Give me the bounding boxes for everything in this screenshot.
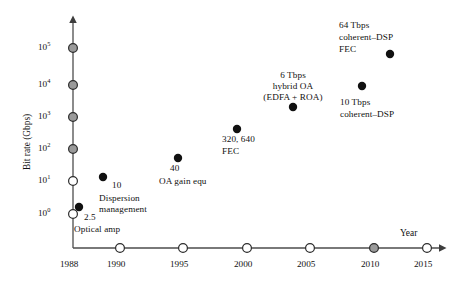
x-tick-marker-2000 [243, 244, 252, 253]
x-axis-title: Year [400, 228, 417, 238]
annotation-10tbps-line1: 10 Tbps [340, 97, 370, 108]
annotation-oa-gain-equ: OA gain equ [159, 176, 207, 187]
x-tick-label-1990: 1990 [107, 259, 125, 269]
x-tick-marker-2005 [306, 244, 315, 253]
y-tick-marker-1e0 [69, 210, 78, 219]
annotation-dispersion-line1: Dispersion [99, 193, 140, 204]
annotation-fec: FEC [222, 146, 239, 157]
y-tick-marker-1e3 [69, 113, 78, 122]
x-tick-label-1995: 1995 [170, 259, 188, 269]
x-tick-marker-1995 [179, 244, 188, 253]
x-tick-label-1988: 1988 [60, 259, 78, 269]
x-tick-label-2005: 2005 [297, 259, 315, 269]
y-tick-label-1e5: 105 [38, 42, 50, 52]
x-tick-marker-2010 [370, 244, 379, 253]
annotation-6tbps-line3: (EDFA + ROA) [238, 92, 348, 103]
annotation-64tbps-line3: FEC [339, 44, 356, 55]
annotation-10-value: 10 [112, 180, 121, 191]
x-tick-label-2000: 2000 [234, 259, 252, 269]
annotation-6tbps-line1: 6 Tbps [238, 70, 348, 81]
annotation-optical-amp: Optical amp [74, 224, 120, 235]
annotation-2p5-value: 2.5 [84, 212, 96, 223]
x-tick-marker-1990 [116, 244, 125, 253]
y-tick-exp-1e2: 2 [47, 141, 50, 148]
data-point-40 [174, 154, 182, 162]
y-tick-marker-1e1 [69, 177, 78, 186]
data-point-320-640 [233, 125, 241, 133]
y-tick-exp-1e4: 4 [47, 77, 50, 84]
y-tick-marker-1e5 [69, 44, 78, 53]
y-tick-label-1e1: 101 [38, 175, 50, 185]
data-point-2p5 [75, 203, 83, 211]
y-tick-label-1e2: 102 [38, 143, 50, 153]
y-tick-label-1e4: 104 [38, 79, 50, 89]
y-tick-marker-1e2 [69, 145, 78, 154]
annotation-dispersion-line2: management [99, 204, 147, 215]
annotation-64tbps-line1: 64 Tbps [339, 20, 369, 31]
y-tick-exp-1e1: 1 [47, 173, 50, 180]
data-point-10 [99, 173, 107, 181]
bit-rate-vs-year-chart: 105 104 103 102 101 100 1988 1990 1995 2… [0, 0, 455, 282]
annotation-40-value: 40 [170, 163, 179, 174]
y-tick-label-1e0: 100 [38, 208, 50, 218]
y-tick-exp-1e0: 0 [47, 206, 50, 213]
x-tick-label-2010: 2010 [361, 259, 379, 269]
annotation-320-640-value: 320, 640 [222, 134, 255, 145]
data-point-64tbps [386, 50, 394, 58]
y-tick-exp-1e3: 3 [47, 109, 50, 116]
x-tick-label-2015: 2015 [414, 259, 432, 269]
annotation-6tbps-line2: hybrid OA [238, 81, 348, 92]
data-point-10tbps [358, 82, 366, 90]
y-axis-title: Bit rate (Gbps) [22, 114, 32, 170]
x-tick-marker-2015 [423, 244, 432, 253]
y-tick-marker-1e4 [69, 81, 78, 90]
annotation-10tbps-line2: coherent–DSP [340, 109, 394, 120]
y-tick-exp-1e5: 5 [47, 40, 50, 47]
data-point-6tbps [289, 103, 297, 111]
y-tick-label-1e3: 103 [38, 111, 50, 121]
annotation-64tbps-line2: coherent–DSP [339, 32, 393, 43]
